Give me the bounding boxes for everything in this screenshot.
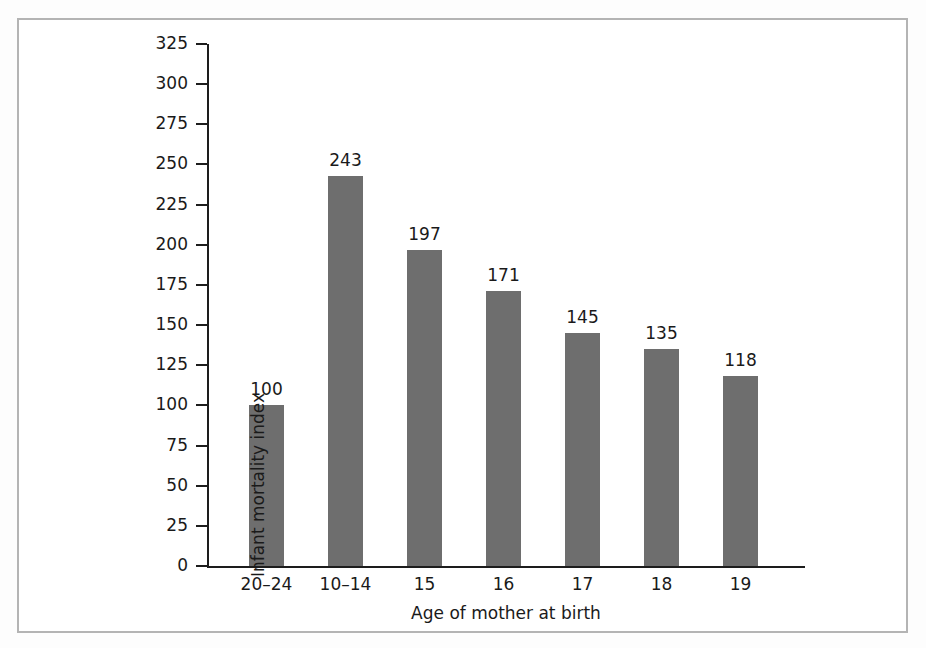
bar-chart-plot-area: 0255075100125150175200225250275300325 10… <box>0 0 926 648</box>
y-axis-tick-label: 250 <box>140 155 188 172</box>
bar-value-label: 118 <box>706 352 776 369</box>
y-axis-tick <box>196 204 207 206</box>
bar-value-label: 145 <box>548 309 618 326</box>
y-axis-tick <box>196 445 207 447</box>
y-axis-tick-label-wrap: 0 <box>136 557 188 575</box>
y-axis-tick <box>196 324 207 326</box>
x-axis-title: Age of mother at birth <box>207 603 805 623</box>
y-axis-tick-label: 325 <box>140 35 188 52</box>
y-axis-tick <box>196 565 207 567</box>
y-axis-line <box>207 44 209 568</box>
y-axis-tick <box>196 123 207 125</box>
y-axis-tick-label: 300 <box>140 75 188 92</box>
y-axis-title-holder: Infant mortality index <box>143 175 173 435</box>
y-axis-tick-label-wrap: 250 <box>136 155 188 173</box>
y-axis-tick-label-wrap: 275 <box>136 115 188 133</box>
y-axis-tick-label: 50 <box>140 477 188 494</box>
y-axis-tick-label: 275 <box>140 115 188 132</box>
y-axis-tick-label-wrap: 25 <box>136 517 188 535</box>
bar-value-label: 171 <box>469 267 539 284</box>
y-axis-tick <box>196 43 207 45</box>
y-axis-tick-label-wrap: 75 <box>136 437 188 455</box>
y-axis-tick-label-wrap: 300 <box>136 75 188 93</box>
bar-value-label: 197 <box>390 226 460 243</box>
bar-value-label: 243 <box>311 152 381 169</box>
y-axis-tick <box>196 364 207 366</box>
x-axis-line <box>207 566 805 568</box>
y-axis-tick-label: 25 <box>140 517 188 534</box>
bar <box>407 250 442 566</box>
y-axis-tick <box>196 485 207 487</box>
y-axis-tick <box>196 163 207 165</box>
y-axis-tick <box>196 83 207 85</box>
x-axis-category-label: 19 <box>691 576 791 593</box>
y-axis-tick-label-wrap: 50 <box>136 477 188 495</box>
y-axis-tick-label-wrap: 325 <box>136 35 188 53</box>
bar <box>644 349 679 566</box>
y-axis-tick-label: 75 <box>140 437 188 454</box>
bar <box>486 291 521 566</box>
y-axis-title: Infant mortality index <box>248 355 268 615</box>
y-axis-tick <box>196 525 207 527</box>
y-axis-tick <box>196 404 207 406</box>
y-axis-tick <box>196 284 207 286</box>
y-axis-tick <box>196 244 207 246</box>
bar <box>723 376 758 566</box>
bar <box>328 176 363 566</box>
y-axis-tick-label: 0 <box>140 557 188 574</box>
bar-value-label: 135 <box>627 325 697 342</box>
bar <box>565 333 600 566</box>
